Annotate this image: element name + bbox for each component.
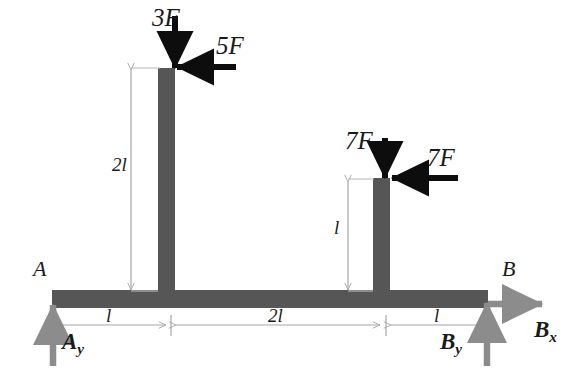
dimension-label-l-right: l: [434, 306, 439, 325]
reaction-arrows: [53, 303, 542, 366]
dimension-label-l-left: l: [106, 306, 111, 325]
dimension-label-l-vertical: l: [334, 218, 339, 237]
reaction-label-By: By: [440, 330, 462, 356]
reaction-label-By-subscript: y: [455, 340, 462, 357]
right-column: [373, 178, 390, 290]
structure-members: [52, 68, 488, 308]
node-label-A: A: [33, 258, 46, 280]
dimension-label-2l: 2l: [268, 306, 283, 325]
load-label-3F: 3F: [152, 5, 180, 30]
reaction-label-Bx-base: B: [534, 317, 549, 342]
node-label-B: B: [502, 258, 515, 280]
reaction-label-Ay-subscript: y: [77, 340, 84, 357]
reaction-label-Ay-base: A: [62, 329, 77, 354]
diagram-canvas: [0, 0, 581, 375]
load-label-5F: 5F: [216, 33, 244, 58]
free-body-diagram: 3F 5F 7F 7F A B 2l l l 2l l Ay By Bx: [0, 0, 581, 375]
reaction-label-Bx: Bx: [534, 318, 557, 344]
load-label-7F-horizontal: 7F: [427, 145, 455, 170]
left-column: [158, 68, 175, 290]
reaction-label-Bx-subscript: x: [549, 328, 557, 345]
reaction-label-By-base: B: [440, 329, 455, 354]
dimension-label-2l-vertical: 2l: [112, 155, 127, 174]
reaction-label-Ay: Ay: [62, 330, 84, 356]
load-label-7F-vertical: 7F: [345, 128, 373, 153]
